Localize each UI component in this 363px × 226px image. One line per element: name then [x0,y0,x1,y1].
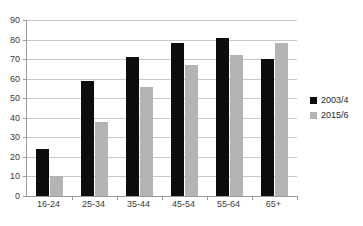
bar [216,38,229,196]
bar [95,122,108,196]
x-axis-tick-label: 16-24 [37,200,60,209]
legend-item: 2003/4 [310,93,362,108]
bar [81,81,94,196]
x-axis-tick-label: 35-44 [127,200,150,209]
bars-layer [27,20,297,196]
chart-legend: 2003/42015/6 [310,93,362,123]
y-axis-tick-label: 20 [2,152,20,161]
bar [261,59,274,196]
y-axis-tick-label: 50 [2,94,20,103]
bar-group [252,20,297,196]
y-axis-tick-label: 30 [2,133,20,142]
legend-swatch-icon [310,112,317,119]
y-tick-mark [23,196,27,197]
y-axis-tick-label: 80 [2,35,20,44]
bar-group [162,20,207,196]
x-tick-mark [297,196,298,200]
bar-chart: 0102030405060708090 16-2425-3435-4445-54… [0,0,363,226]
y-axis-tick-label: 40 [2,113,20,122]
y-axis-tick-label: 0 [2,192,20,201]
x-axis: 16-2425-3435-4445-5455-6465+ [26,200,296,220]
bar-group [72,20,117,196]
legend-item-label: 2003/4 [321,96,349,105]
bar [171,43,184,196]
x-axis-tick-label: 55-64 [217,200,240,209]
bar-group [207,20,252,196]
bar [230,55,243,196]
bar [126,57,139,196]
bar-group [117,20,162,196]
bar [50,176,63,196]
bar [36,149,49,196]
legend-item-label: 2015/6 [321,111,349,120]
x-axis-tick-label: 25-34 [82,200,105,209]
y-axis-tick-label: 70 [2,55,20,64]
y-axis-tick-label: 90 [2,16,20,25]
y-axis-tick-label: 10 [2,172,20,181]
x-axis-tick-label: 45-54 [172,200,195,209]
bar [275,43,288,196]
bar [140,87,153,197]
legend-item: 2015/6 [310,108,362,123]
y-axis-tick-label: 60 [2,74,20,83]
x-axis-tick-label: 65+ [266,200,281,209]
plot-area [26,20,297,197]
legend-swatch-icon [310,97,317,104]
bar [185,65,198,196]
y-axis: 0102030405060708090 [2,0,20,226]
bar-group [27,20,72,196]
